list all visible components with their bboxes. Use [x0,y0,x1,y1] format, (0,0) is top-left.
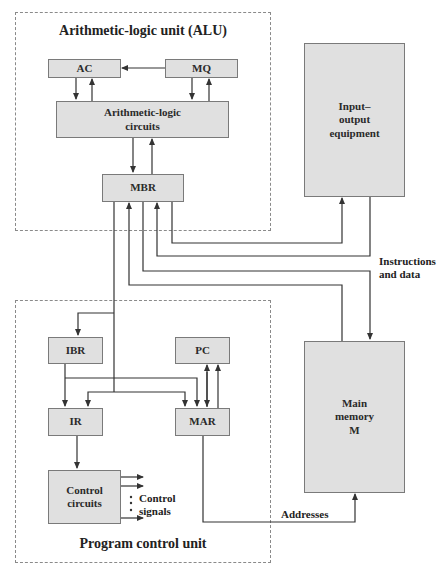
mq-register: MQ [165,59,238,78]
alc-label-line2: circuits [125,120,160,133]
control-signals-label-line2: signals [139,505,175,518]
mbr-register: MBR [102,174,184,202]
addresses-label: Addresses [281,508,328,521]
alc-label-line1: Arithmetic-logic [104,106,181,119]
control-circuits-label-line1: Control [66,484,102,497]
arithmetic-logic-circuits: Arithmetic-logic circuits [56,101,229,138]
memory-label-line3: M [349,424,359,437]
memory-label-line2: memory [335,410,374,423]
io-label-line3: equipment [329,127,379,140]
input-output-equipment: Input– output equipment [304,43,405,197]
mbr-label: MBR [130,181,156,194]
ir-register: IR [48,408,103,436]
io-label-line1: Input– [339,100,371,113]
alu-title: Arithmetic-logic unit (ALU) [15,23,271,39]
control-circuits-label-line2: circuits [67,497,102,510]
ac-register: AC [48,59,121,78]
ibr-label: IBR [66,344,86,357]
ir-label: IR [69,415,81,428]
main-memory: Main memory M [304,341,405,493]
instructions-label-line2: and data [379,268,436,281]
mar-register: MAR [175,408,230,436]
program-control-unit-title: Program control unit [15,536,271,552]
pc-label: PC [195,344,210,357]
mar-label: MAR [189,415,215,428]
ac-label: AC [77,62,93,75]
memory-label-line1: Main [342,397,367,410]
control-circuits: Control circuits [48,470,121,524]
control-signals-label: Control signals [139,492,175,517]
io-label-line2: output [339,113,370,126]
control-signals-label-line1: Control [139,492,175,505]
ibr-register: IBR [48,337,103,364]
instructions-label-line1: Instructions [379,255,436,268]
pc-register: PC [175,337,230,364]
instructions-and-data-label: Instructions and data [379,255,436,280]
mq-label: MQ [192,62,211,75]
